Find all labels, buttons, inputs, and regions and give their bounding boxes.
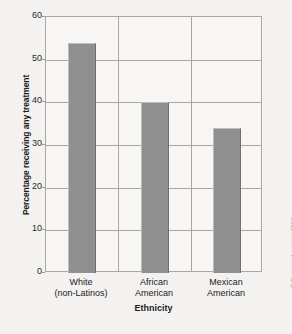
y-axis-tick-label: 40 xyxy=(2,96,42,105)
category-label: MexicanAmerican xyxy=(166,277,286,299)
bar xyxy=(68,43,96,273)
category-divider xyxy=(118,17,119,271)
y-axis-tick-label: 50 xyxy=(2,54,42,63)
bar xyxy=(141,102,169,273)
y-axis-tick-label: 20 xyxy=(2,182,42,191)
y-axis-tick-mark xyxy=(42,272,45,273)
y-axis-tick-label: 0 xyxy=(2,267,42,276)
category-divider xyxy=(191,17,192,271)
bar xyxy=(213,128,241,273)
y-axis-tick-label: 60 xyxy=(2,11,42,20)
x-axis-title: Ethnicity xyxy=(45,303,262,313)
plot-area xyxy=(45,16,262,272)
y-axis-tick-label: 10 xyxy=(2,224,42,233)
copyright-credit: © Cengage Learning 2013 xyxy=(290,203,292,303)
category-label-line: American xyxy=(166,288,286,299)
category-label-line: Mexican xyxy=(166,277,286,288)
bar-chart-figure: Percentage receiving any treatment 01020… xyxy=(0,0,292,334)
y-axis-tick-label: 30 xyxy=(2,139,42,148)
